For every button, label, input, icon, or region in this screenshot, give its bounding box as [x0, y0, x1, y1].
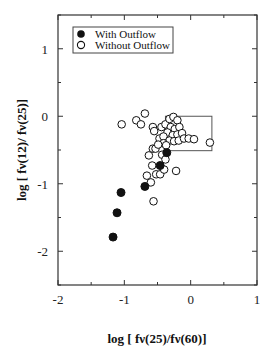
- with-outflow-point: [109, 233, 117, 241]
- with-outflow-point: [117, 189, 125, 197]
- with-outflow-point: [163, 149, 171, 157]
- x-tick-label: -2: [53, 292, 64, 307]
- without-outflow-point: [137, 121, 145, 129]
- without-outflow-point: [154, 141, 162, 149]
- without-outflow-point: [162, 141, 170, 149]
- x-tick-label: -1: [119, 292, 130, 307]
- without-outflow-point: [206, 139, 214, 147]
- without-outflow-point: [148, 162, 156, 170]
- without-outflow-point: [145, 152, 153, 160]
- x-tick-label: 0: [187, 292, 194, 307]
- y-tick-label: -1: [37, 177, 48, 192]
- without-outflow-point: [150, 127, 158, 135]
- filled-circle-icon: [77, 30, 85, 38]
- without-outflow-point: [172, 167, 180, 175]
- scatter-chart: -2-101-2-101 With Outflow Without Outflo…: [0, 0, 270, 351]
- y-tick-label: -2: [37, 244, 48, 259]
- y-tick-label: 1: [42, 42, 49, 57]
- legend-without-outflow: Without Outflow: [95, 39, 170, 51]
- x-tick-label: 1: [254, 292, 261, 307]
- without-outflow-point: [150, 198, 158, 206]
- data-points: [109, 110, 214, 241]
- with-outflow-point: [156, 162, 164, 170]
- without-outflow-point: [118, 121, 126, 129]
- x-axis-label: log [ fν(25)/fν(60)]: [108, 331, 207, 346]
- y-axis-label: log [ fν(12)/ fν(25)]: [14, 99, 29, 201]
- with-outflow-point: [141, 182, 149, 190]
- y-tick-label: 0: [42, 109, 49, 124]
- legend: With Outflow Without Outflow: [73, 27, 173, 53]
- without-outflow-point: [190, 135, 198, 143]
- with-outflow-point: [113, 209, 121, 217]
- open-circle-icon: [77, 41, 84, 48]
- without-outflow-point: [141, 110, 149, 118]
